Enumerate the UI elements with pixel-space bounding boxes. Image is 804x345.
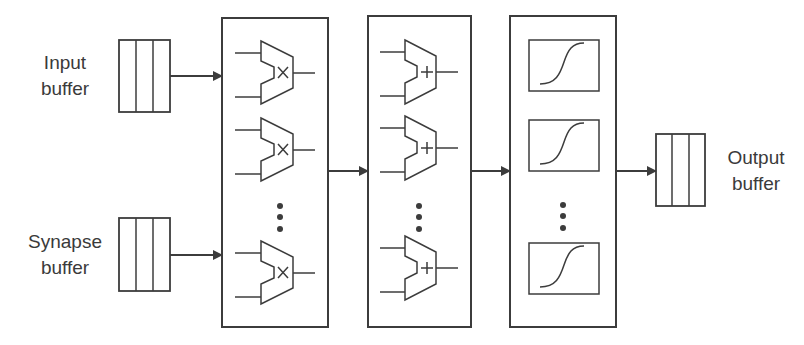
synapse-buffer [119,218,170,291]
adder-unit [380,236,458,300]
multiplier-unit [235,241,315,304]
multiplier-unit [235,118,315,181]
ellipsis-icon [560,202,566,231]
adder-unit [380,116,458,180]
output-buffer [656,134,705,206]
activation-stage [510,16,616,327]
adder-stage [368,16,471,327]
input-buffer [119,40,170,112]
ellipsis-icon [277,203,283,232]
sigmoid-unit [529,40,599,91]
adder-unit [380,40,458,104]
sigmoid-unit [529,120,599,171]
neural-accelerator-diagram [0,0,804,345]
sigmoid-unit [529,243,599,294]
multiplier-unit [235,41,315,104]
ellipsis-icon [416,203,422,232]
multiplier-stage [222,18,328,327]
